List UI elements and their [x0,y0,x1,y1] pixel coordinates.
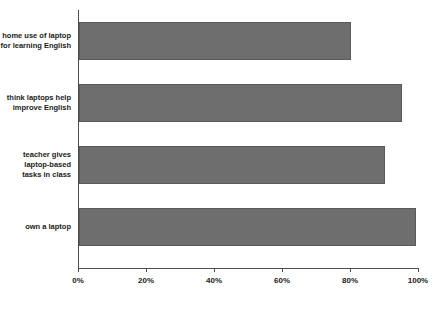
plot-area: home use of laptop for learning English … [78,10,418,268]
x-axis-tick-label: 20% [138,276,154,285]
bar [79,208,416,246]
x-axis-tick [214,268,215,272]
x-axis-line [78,268,418,269]
x-axis-tick-label: 0% [72,276,84,285]
x-axis-tick [146,268,147,272]
x-axis-tick-label: 60% [274,276,290,285]
bar [79,84,402,122]
category-label: own a laptop [0,222,71,232]
x-axis-tick [350,268,351,272]
x-axis-tick-label: 40% [206,276,222,285]
bar [79,22,351,60]
x-axis-tick-label: 100% [408,276,428,285]
category-label: home use of laptop for learning English [0,31,71,51]
x-axis-tick [418,268,419,272]
category-label: think laptops help improve English [0,93,71,113]
x-axis-tick-label: 80% [342,276,358,285]
bar-chart: home use of laptop for learning English … [0,0,434,310]
x-axis-tick [78,268,79,272]
bar [79,146,385,184]
category-label: teacher gives laptop-based tasks in clas… [0,150,71,180]
bar-row: own a laptop [79,208,416,246]
bar-row: teacher gives laptop-based tasks in clas… [79,146,385,184]
bar-row: home use of laptop for learning English [79,22,351,60]
x-axis-tick [282,268,283,272]
bar-row: think laptops help improve English [79,84,402,122]
